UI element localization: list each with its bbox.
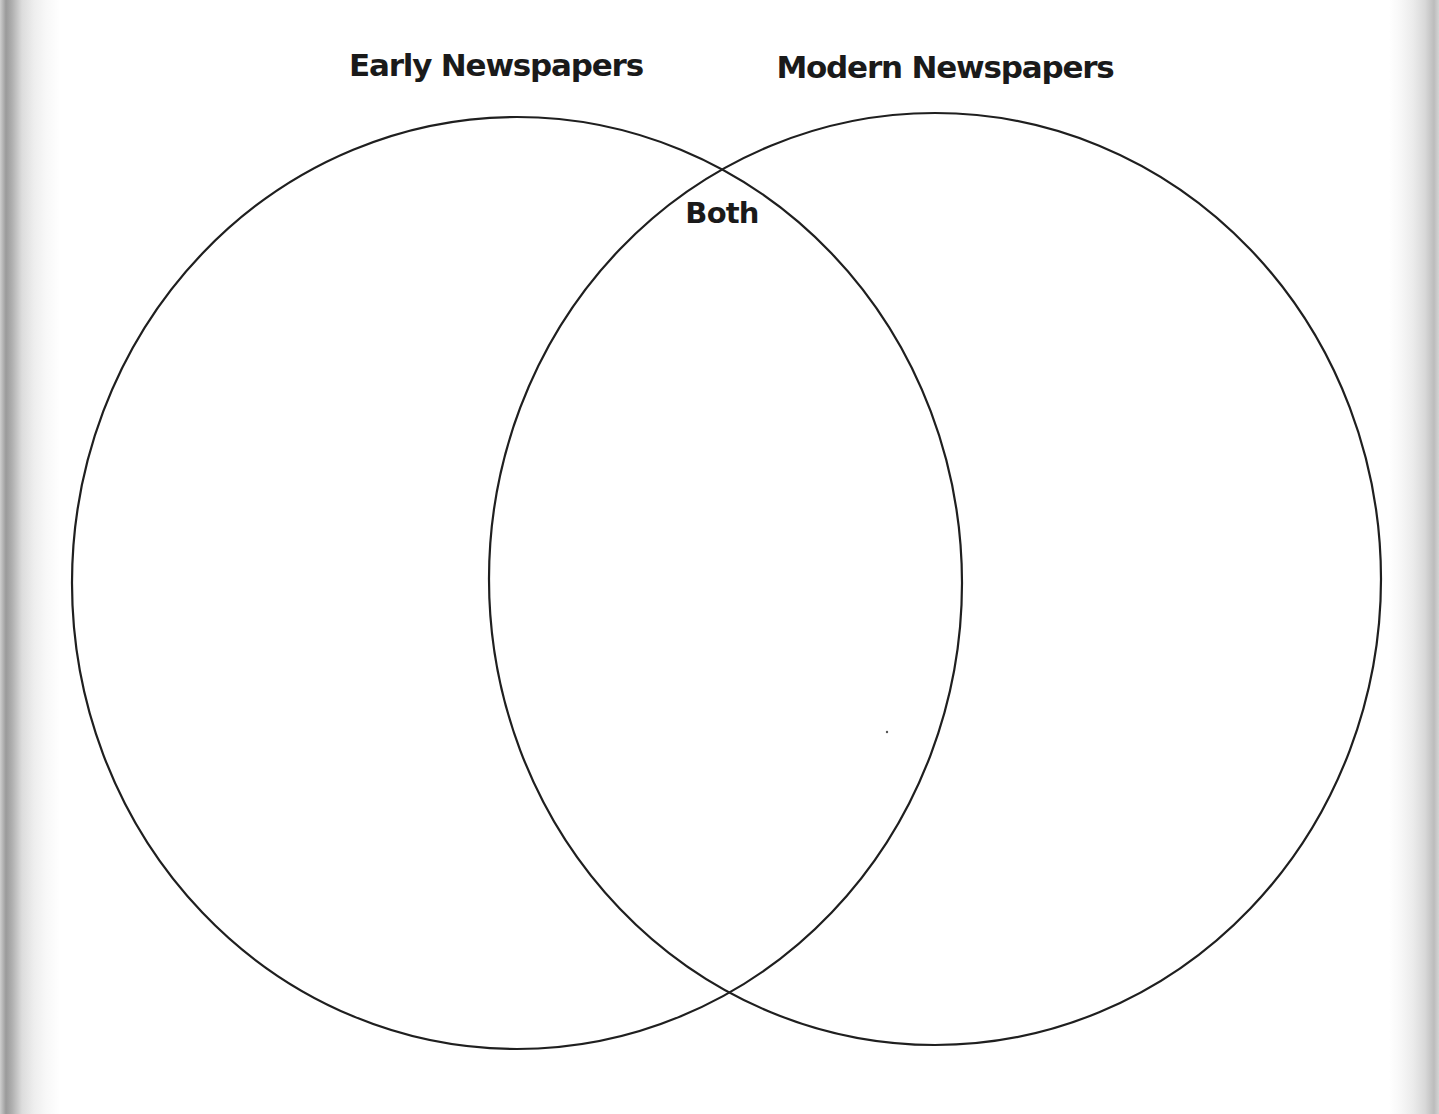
modern-only-region[interactable] <box>990 260 1360 900</box>
early-newspapers-title: Early Newspapers <box>349 50 643 81</box>
early-only-region[interactable] <box>90 260 470 900</box>
both-region[interactable] <box>520 260 930 900</box>
both-label: Both <box>685 199 758 228</box>
modern-newspapers-title: Modern Newspapers <box>776 52 1113 83</box>
